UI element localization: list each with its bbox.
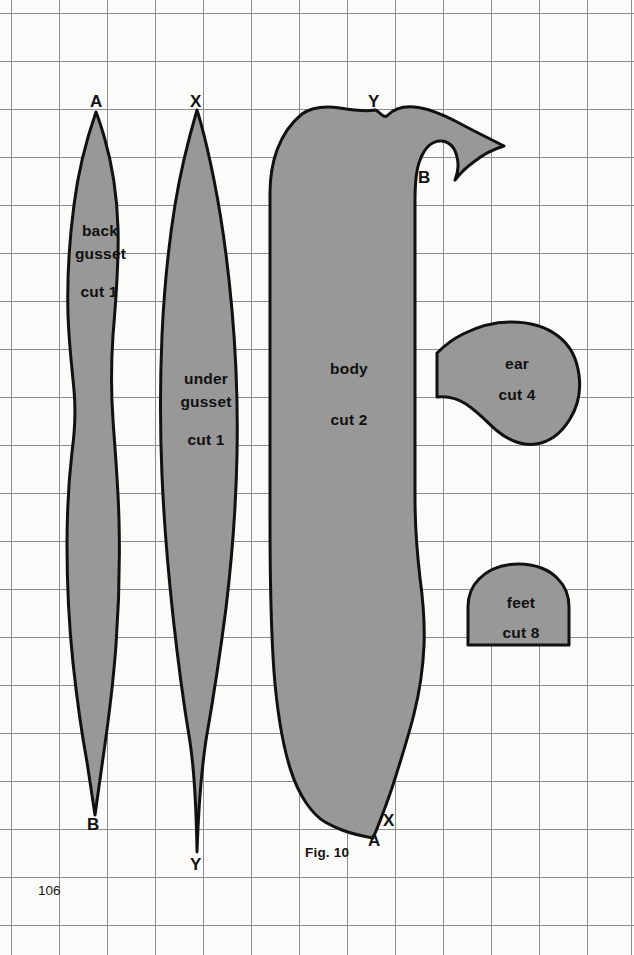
piece-body[interactable] bbox=[270, 107, 504, 838]
piece-feet[interactable] bbox=[468, 564, 569, 645]
piece-back-gusset[interactable] bbox=[67, 112, 119, 815]
piece-ear[interactable] bbox=[437, 322, 580, 444]
piece-under-gusset[interactable] bbox=[161, 110, 238, 852]
pattern-page: A back gusset cut 1 B X under gusset cut… bbox=[0, 0, 634, 955]
pattern-pieces bbox=[0, 0, 634, 955]
